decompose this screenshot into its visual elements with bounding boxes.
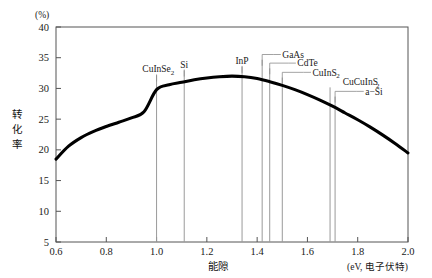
y-tick-label: 15 — [39, 175, 50, 186]
marker-label-text-asi: a−Si — [365, 87, 383, 97]
y-axis: 510152025303540 — [39, 22, 62, 248]
x-tick-label: 0.8 — [100, 246, 113, 257]
y-axis-title: 转 化 率 — [12, 108, 23, 150]
efficiency-curve — [56, 76, 408, 159]
x-tick-label: 1.8 — [351, 246, 364, 257]
x-axis-title: 能隙 — [208, 260, 229, 272]
marker-label-inp: InP — [235, 56, 248, 66]
y-unit-label: (%) — [35, 10, 49, 21]
material-marker-lines — [157, 60, 336, 242]
x-tick-label: 1.2 — [200, 246, 213, 257]
x-tick-label: 1.6 — [301, 246, 314, 257]
x-axis: 0.60.81.01.21.41.61.82.0 — [49, 237, 414, 257]
y-tick-label: 10 — [39, 206, 50, 217]
y-tick-label: 35 — [39, 52, 50, 63]
x-tick-label: 1.4 — [251, 246, 265, 257]
marker-label-text-inp: InP — [235, 56, 248, 66]
marker-label-text-si: Si — [180, 60, 188, 70]
solar-efficiency-chart: 510152025303540 0.60.81.01.21.41.61.82.0… — [0, 0, 432, 278]
marker-leader-elbow-gaas — [262, 55, 273, 66]
y-tick-label: 20 — [39, 144, 50, 155]
y-tick-label: 25 — [39, 114, 50, 125]
x-tick-label: 0.6 — [49, 246, 62, 257]
y-tick-label: 5 — [44, 237, 49, 248]
x-tick-label: 1.0 — [150, 246, 163, 257]
plot-frame — [56, 27, 408, 242]
marker-label-si: Si — [180, 60, 188, 70]
figure-root: 510152025303540 0.60.81.01.21.41.61.82.0… — [0, 0, 432, 278]
y-tick-label: 30 — [39, 83, 50, 94]
x-tick-label: 2.0 — [401, 246, 414, 257]
marker-label-sub-cuins2: 2 — [336, 72, 340, 80]
marker-leader-elbow-cuins2 — [282, 72, 303, 83]
y-axis-title-char-0: 转 — [12, 108, 23, 120]
material-labels: CuInSe2SiInPGaAsCdTeCuInS2CuCuInS2a−Si — [142, 50, 383, 97]
marker-label-sub-cuinse2: 2 — [171, 69, 175, 77]
y-tick-label: 40 — [39, 22, 50, 33]
marker-label-text-cuinse2: CuInSe — [142, 64, 171, 74]
marker-label-asi: a−Si — [365, 87, 383, 97]
marker-label-text-cuins2: CuInS — [312, 68, 336, 78]
y-axis-title-char-2: 率 — [12, 138, 22, 150]
marker-leader-elbow-asi — [335, 91, 356, 102]
efficiency-curve-group — [56, 76, 408, 159]
x-unit-label: (eV, 电子伏特) — [347, 261, 408, 273]
marker-label-cuins2: CuInS2 — [312, 68, 340, 80]
marker-label-cuinse2: CuInSe2 — [142, 64, 175, 76]
y-axis-title-char-1: 化 — [12, 123, 23, 135]
